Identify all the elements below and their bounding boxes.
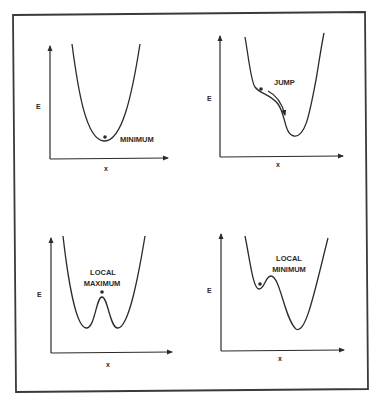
energy-landscape-diagram: E x MINIMUM E x JUMP E x LOCAL MAXIMUM E… bbox=[0, 0, 379, 402]
annotation-minimum: MINIMUM bbox=[120, 135, 154, 144]
x-axis bbox=[51, 352, 172, 353]
figure-frame bbox=[13, 12, 368, 392]
panel-local-minimum: E x LOCAL MINIMUM bbox=[207, 234, 344, 362]
x-axis-label: x bbox=[276, 161, 280, 168]
y-axis-label: E bbox=[207, 95, 212, 102]
x-axis bbox=[50, 158, 168, 159]
ball-dot bbox=[100, 290, 104, 294]
energy-curve bbox=[72, 44, 140, 141]
annotation-maximum: MAXIMUM bbox=[84, 279, 121, 288]
y-axis-label: E bbox=[36, 103, 41, 110]
y-axis-label: E bbox=[207, 287, 212, 294]
x-axis bbox=[221, 350, 344, 351]
ball-dot bbox=[258, 282, 262, 286]
x-axis-label: x bbox=[106, 361, 110, 368]
annotation-jump: JUMP bbox=[274, 78, 295, 87]
ball-dot bbox=[259, 87, 263, 91]
x-axis bbox=[220, 156, 343, 157]
panel-jump: E x JUMP bbox=[207, 33, 343, 168]
ball-dot bbox=[103, 135, 107, 139]
annotation-local: LOCAL bbox=[90, 268, 116, 277]
annotation-minimum: MINIMUM bbox=[272, 265, 306, 274]
panel-local-maximum: E x LOCAL MAXIMUM bbox=[37, 236, 172, 368]
x-axis-label: x bbox=[278, 355, 282, 362]
panel-minimum: E x MINIMUM bbox=[36, 44, 168, 172]
y-axis-label: E bbox=[37, 291, 42, 298]
x-axis-label: x bbox=[104, 165, 108, 172]
energy-curve bbox=[245, 236, 328, 330]
annotation-local: LOCAL bbox=[276, 254, 302, 263]
